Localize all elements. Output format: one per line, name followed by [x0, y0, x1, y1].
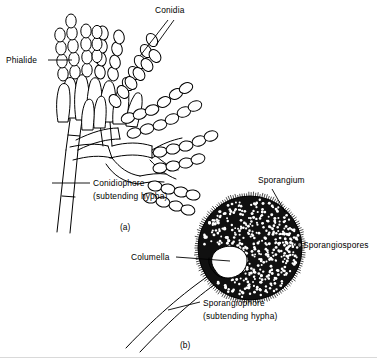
sporangiospore-dot: [281, 280, 283, 282]
sporangiospore-dot: [238, 230, 241, 233]
sporangiospore-dot: [261, 264, 263, 266]
sporangiospore-dot: [253, 246, 256, 249]
sporangiospore-dot: [217, 282, 220, 285]
sporangiospore-dot: [275, 260, 277, 262]
sporangiospore-dot: [279, 233, 281, 235]
sporangiospore-dot: [285, 242, 288, 245]
sporangiospore-dot: [238, 209, 240, 211]
sporangiospore-dot: [262, 226, 264, 228]
sporangiospore-dot: [259, 277, 261, 279]
sporangiospore-dot: [260, 294, 262, 296]
sporangiospore-dot: [227, 239, 230, 242]
sporangiospore-dot: [216, 219, 218, 221]
sporangiospore-dot: [260, 253, 262, 255]
sporangiospore-dot: [286, 233, 289, 236]
sporangiospore-dot: [273, 219, 276, 222]
sporangiospore-dot: [275, 246, 278, 249]
sporangiospore-dot: [250, 204, 252, 206]
sporangiospore-dot: [258, 258, 260, 260]
sporangiospore-dot: [276, 226, 278, 228]
conidia-chain: [92, 25, 102, 62]
sporangiospore-dot: [286, 247, 288, 249]
label-sporangiophore-line1: Sporangiophore: [203, 298, 265, 308]
sporangiospore-dot: [223, 213, 225, 215]
sporangiospore-dot: [287, 255, 289, 257]
sporangiospore-dot: [288, 251, 290, 253]
sporangiospore-dot: [228, 288, 230, 290]
sporangiospore-dot: [297, 234, 300, 237]
sporangiospore-dot: [226, 242, 229, 245]
sporangiospore-dot: [213, 219, 216, 222]
sporangiospore-dot: [259, 199, 261, 201]
sporangiospore-dot: [227, 220, 229, 222]
sporangiospore-dot: [261, 214, 264, 217]
sporangiospore-dot: [274, 282, 277, 285]
sporangiospore-dot: [289, 270, 291, 272]
sporangiospore-dot: [289, 254, 291, 256]
sporangiospore-dot: [244, 246, 247, 249]
sporangiospore-dot: [217, 232, 219, 234]
sporangiospore-dot: [267, 255, 270, 258]
sporangiospore-dot: [253, 291, 256, 294]
sporangiospore-dot: [289, 237, 292, 240]
sporangiospore-dot: [249, 223, 251, 225]
sporangiospore-dot: [265, 289, 267, 291]
sporangiospore-dot: [253, 237, 256, 240]
sporangiospore-dot: [250, 267, 253, 270]
sporangiospore-dot: [252, 234, 255, 237]
sporangiospore-dot: [287, 228, 290, 231]
sporangiospore-dot: [249, 263, 251, 265]
sporangiospore-dot: [225, 236, 228, 239]
sporangiospore-dot: [285, 214, 288, 217]
sporangiospore-dot: [235, 202, 237, 204]
sporangiospore-dot: [274, 238, 276, 240]
sporangiospore-dot: [254, 203, 257, 206]
sporangiospore-dot: [251, 254, 253, 256]
sporangiospore-dot: [268, 271, 271, 274]
sporangiospore-dot: [250, 217, 252, 219]
sporangiospore-dot: [231, 224, 233, 226]
sporangiospore-dot: [253, 243, 256, 246]
sporangiospore-dot: [265, 260, 267, 262]
sporangiospore-dot: [215, 229, 217, 231]
sporangiospore-dot: [294, 261, 297, 264]
sporangiospore-dot: [253, 285, 255, 287]
sporangiospore-dot: [217, 242, 219, 244]
sporangiospore-dot: [264, 278, 266, 280]
sporangiospore-dot: [268, 202, 271, 205]
sporangiospore-dot: [260, 281, 263, 284]
sporangiospore-dot: [259, 289, 262, 292]
figure-root: Phialide Conidia Conidiophore (subtendin…: [0, 0, 377, 359]
sporangiospore-dot: [248, 229, 251, 232]
sporangiospore-dot: [229, 210, 232, 213]
sporangiospore-dot: [271, 227, 274, 230]
sporangiospore-dot: [247, 281, 250, 284]
sporangiospore-dot: [253, 271, 256, 274]
sporangiospore-dot: [285, 225, 288, 228]
sporangiospore-dot: [283, 228, 285, 230]
sporangiospore-dot: [250, 272, 253, 275]
sporangiospore-dot: [271, 252, 273, 254]
sporangiospore-dot: [283, 216, 286, 219]
sporangiospore-dot: [273, 279, 275, 281]
sporangiospore-dot: [256, 222, 258, 224]
sporangiospore-dot: [240, 219, 243, 222]
sporangiospore-dot: [282, 260, 284, 262]
sporangiospore-dot: [271, 272, 274, 275]
sporangiospore-dot: [273, 290, 276, 293]
sporangiospore-dot: [255, 206, 257, 208]
sporangiospore-dot: [241, 243, 244, 246]
sporangiospore-dot: [249, 293, 251, 295]
sporangiospore-dot: [286, 260, 289, 263]
sporangiospore-dot: [224, 286, 227, 289]
sporangiospore-dot: [240, 228, 242, 230]
sporangiospore-dot: [224, 284, 227, 287]
sporangiospore-dot: [273, 224, 276, 227]
label-sporangiophore-line2: (subtending hypha): [203, 311, 277, 321]
sporangiospore-dot: [262, 222, 264, 224]
sporangiospore-dot: [255, 218, 257, 220]
sporangiospore-dot: [220, 236, 222, 238]
sporangiospore-dot: [244, 272, 246, 274]
sporangiospore-dot: [240, 277, 242, 279]
sporangiospore-dot: [261, 208, 264, 211]
